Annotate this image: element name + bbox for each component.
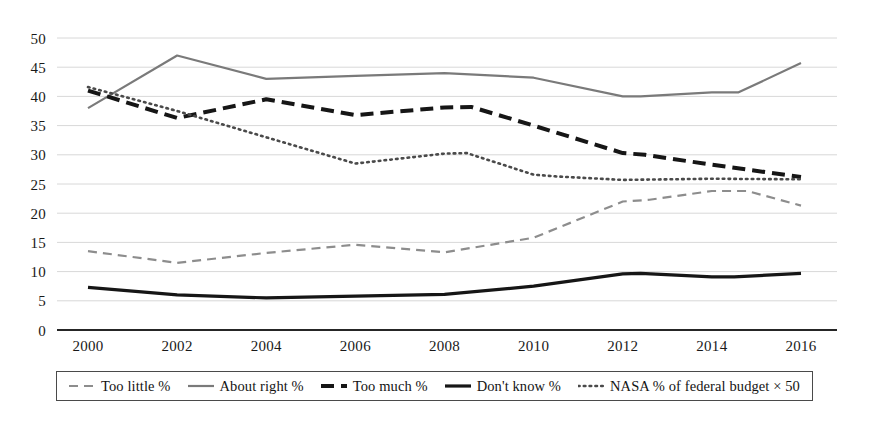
legend-item[interactable]: NASA % of federal budget × 50 (578, 378, 800, 395)
y-tick-label: 50 (30, 31, 46, 47)
legend-label: About right % (220, 378, 304, 395)
legend-item[interactable]: Too little % (69, 378, 170, 395)
series-line (88, 87, 801, 180)
legend-label: Too much % (353, 378, 428, 395)
x-tick-label: 2016 (785, 338, 816, 354)
dashed-gray-icon (69, 381, 95, 391)
y-tick-label: 45 (30, 60, 46, 76)
x-axis-tick-labels: 200020022004200620082010201220142016 (72, 338, 816, 354)
solid-black-icon (445, 381, 471, 391)
y-tick-label: 30 (30, 147, 46, 163)
y-tick-label: 10 (30, 264, 46, 280)
y-tick-label: 15 (30, 235, 46, 251)
y-tick-label: 40 (30, 89, 46, 105)
y-tick-label: 0 (38, 323, 46, 339)
y-tick-label: 35 (30, 118, 46, 134)
legend-label: NASA % of federal budget × 50 (610, 378, 800, 395)
series-line (88, 191, 801, 263)
x-tick-label: 2008 (429, 338, 460, 354)
solid-gray-icon (188, 381, 214, 391)
y-tick-label: 5 (38, 293, 46, 309)
x-tick-label: 2010 (518, 338, 549, 354)
x-tick-label: 2000 (72, 338, 103, 354)
y-tick-label: 25 (30, 177, 46, 193)
x-tick-label: 2006 (340, 338, 371, 354)
chart-legend: Too little %About right %Too much %Don't… (56, 371, 813, 401)
series-line (88, 56, 801, 109)
legend-label: Too little % (101, 378, 170, 395)
y-tick-label: 20 (30, 206, 46, 222)
data-series-group (88, 56, 801, 298)
chart-plot-area: 05101520253035404550 2000200220042006200… (0, 0, 869, 430)
line-chart: 05101520253035404550 2000200220042006200… (0, 0, 869, 430)
gridlines (57, 38, 837, 301)
dashed-black-icon (321, 381, 347, 391)
y-axis-tick-labels: 05101520253035404550 (30, 31, 46, 339)
x-tick-label: 2012 (607, 338, 638, 354)
series-line (88, 91, 801, 177)
legend-label: Don't know % (477, 378, 561, 395)
x-tick-label: 2014 (696, 338, 727, 354)
x-tick-label: 2004 (251, 338, 282, 354)
x-tick-label: 2002 (162, 338, 193, 354)
legend-item[interactable]: About right % (188, 378, 304, 395)
series-line (88, 273, 801, 298)
dotted-gray-icon (578, 381, 604, 391)
legend-item[interactable]: Too much % (321, 378, 428, 395)
legend-item[interactable]: Don't know % (445, 378, 561, 395)
